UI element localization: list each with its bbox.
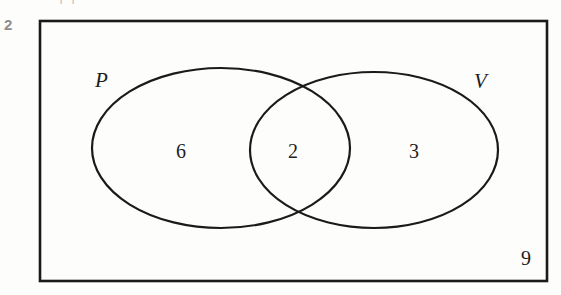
set-circle-p — [92, 68, 350, 228]
region-count-v-only: 3 — [409, 141, 419, 161]
region-count-intersection: 2 — [288, 141, 298, 161]
region-count-outside: 9 — [521, 248, 531, 268]
scanned-page: ( ) 2 P V 6 2 3 9 — [0, 0, 561, 295]
set-label-v: V — [474, 71, 487, 92]
venn-diagram — [0, 0, 561, 295]
set-label-p: P — [95, 70, 108, 91]
region-count-p-only: 6 — [176, 141, 186, 161]
